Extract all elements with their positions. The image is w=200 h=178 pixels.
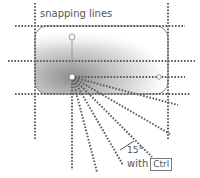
modifier-hint: withCtrl — [127, 158, 172, 171]
modifier-prefix: with — [127, 158, 148, 169]
rotation-handle-icon[interactable] — [69, 34, 75, 40]
snapping-diagram — [0, 0, 200, 178]
ctrl-key-badge: Ctrl — [150, 158, 172, 171]
angle-label: 15° — [127, 146, 143, 155]
snapping-lines-label: snapping lines — [40, 9, 112, 19]
pivot-handle-icon[interactable] — [69, 74, 75, 80]
end-handle-icon[interactable] — [157, 75, 161, 79]
